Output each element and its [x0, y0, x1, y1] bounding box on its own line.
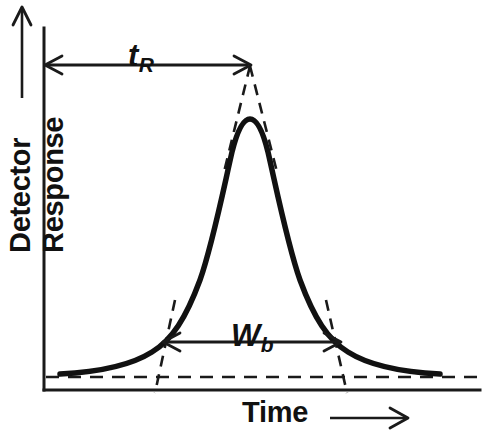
y-axis-label-text: Detector Response: [4, 23, 70, 253]
base-width-label: Wb: [231, 318, 274, 357]
retention-time-label: tR: [128, 38, 154, 77]
y-axis-label: Detector Response: [17, 23, 57, 253]
retention-time-symbol: t: [128, 38, 138, 73]
retention-time-subscript: R: [139, 53, 154, 76]
chart-canvas: [0, 0, 486, 436]
x-axis-label-text: Time: [242, 396, 308, 429]
base-width-symbol: W: [231, 318, 260, 353]
base-width-subscript: b: [261, 333, 274, 356]
chromatogram-figure: Detector Response Time tR Wb: [0, 0, 486, 436]
